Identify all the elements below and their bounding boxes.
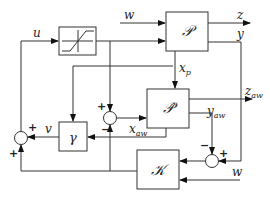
signal-xp-label: xp (179, 61, 191, 77)
sign-right-right: + (219, 147, 228, 160)
signal-z-label: z (236, 8, 244, 22)
signal-u-line (21, 41, 58, 132)
signal-w-top-label: w (124, 8, 135, 22)
signal-v-label: v (45, 122, 52, 136)
signal-xaw-label: xaw (129, 122, 148, 138)
signal-w-bottom-label: w (232, 165, 243, 179)
signal-yaw-label: yaw (206, 104, 226, 120)
signal-u-label: u (33, 26, 41, 40)
sum-junction-right (206, 155, 219, 168)
sign-mid-bottom: − (101, 123, 110, 136)
signal-zaw-label: zaw (244, 84, 263, 100)
signal-y-label: y (236, 27, 244, 41)
sign-mid-top: + (97, 100, 106, 113)
gamma-label: γ (69, 130, 77, 145)
sign-left-bottom: + (9, 147, 18, 160)
sign-left-top: + (28, 121, 37, 134)
sign-right-top: − (200, 139, 209, 152)
y-output-line (208, 42, 241, 161)
sum-junction-left (15, 132, 28, 145)
block-diagram: 𝒫 𝒫̂ γ 𝒦 u w z y xp zaw yaw xaw v w + + … (0, 0, 270, 199)
xaw-line (88, 128, 166, 137)
